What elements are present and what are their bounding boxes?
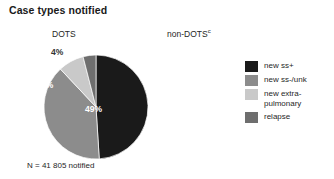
legend-item: new ss+ [245, 61, 334, 72]
legend-item: relapse [245, 112, 334, 123]
pie-slice-label-new-extra-pulmonary: 8% [41, 80, 53, 90]
legend-item-label: new extra- pulmonary [264, 89, 301, 109]
pie-slice-label-new-ss-unk: 39% [25, 108, 42, 118]
column-label-non-dots: non-DOTSc [167, 29, 211, 39]
legend-item: new ss-/unk [245, 75, 334, 86]
pie-chart-caption: N = 41 805 notified [27, 161, 94, 170]
legend-swatch-icon [245, 75, 258, 86]
column-label-dots: DOTS [52, 29, 76, 39]
legend-item-label: new ss+ [264, 61, 294, 71]
legend-item-label: relapse [264, 112, 290, 122]
legend-swatch-icon [245, 89, 258, 100]
pie-slice-label-relapse: 4% [51, 47, 63, 57]
chart-legend: new ss+ new ss-/unk new extra- pulmonary… [245, 61, 334, 126]
legend-item: new extra- pulmonary [245, 89, 334, 109]
legend-item-label: new ss-/unk [264, 75, 307, 85]
legend-swatch-icon [245, 61, 258, 72]
column-label-non-dots-footnote: c [208, 28, 211, 34]
page-title: Case types notified [9, 4, 107, 16]
legend-swatch-icon [245, 112, 258, 123]
pie-slice-label-new-ss-plus: 49% [85, 104, 102, 114]
column-label-non-dots-text: non-DOTS [167, 29, 208, 39]
pie-slice [96, 55, 148, 159]
